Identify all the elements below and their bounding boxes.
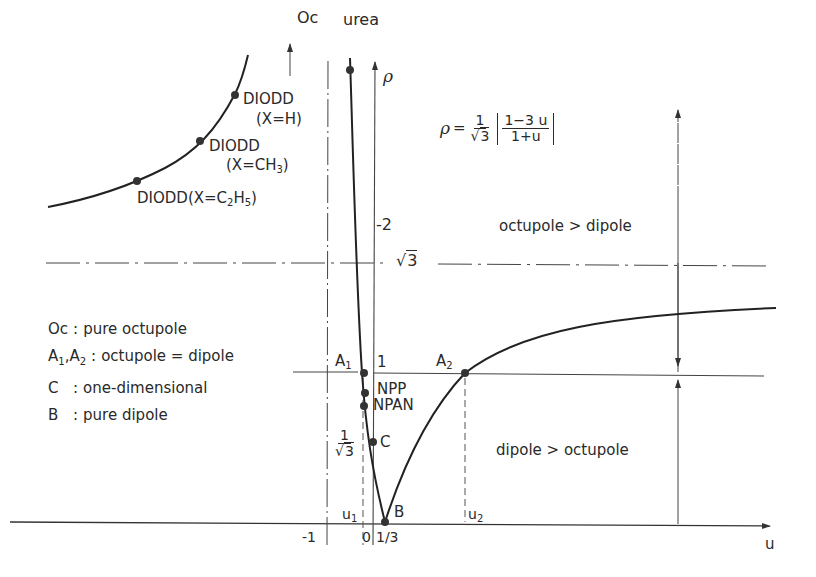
chart-canvas [0, 0, 816, 577]
diodd-h-label-2: (X=H) [256, 112, 302, 127]
formula-abs: 1−3 u 1+u [497, 113, 554, 145]
legend-row-oc: Oc:pure octupole [48, 316, 234, 343]
point-diodd-h [231, 91, 239, 99]
diodd-h-label-1: DIODD [243, 92, 294, 107]
diodd-ch3-label-1: DIODD [209, 139, 260, 154]
region-label-lower: dipole > octupole [496, 443, 629, 458]
urea-label: urea [343, 12, 379, 28]
point-urea [346, 66, 354, 74]
u-axis-label: u [765, 537, 775, 552]
tick-2: -2 [376, 217, 392, 233]
label-a1: A1 [335, 354, 352, 371]
tick-minus1: -1 [302, 530, 316, 544]
tick-sqrt3: √3 [396, 253, 417, 269]
point-b [381, 518, 389, 526]
label-b: B [394, 505, 404, 520]
label-npan: NPAN [373, 398, 414, 413]
u-axis [10, 522, 770, 526]
label-c: C [380, 435, 390, 450]
tick-one-third: 1/3 [376, 530, 399, 544]
curve-branch-left [48, 55, 248, 207]
oc-label: Oc [297, 10, 318, 26]
rho-axis-label: ρ [383, 68, 393, 85]
label-a2: A2 [436, 354, 453, 371]
label-u2: u2 [468, 507, 483, 524]
diodd-ch3-label-2: (X=CH3) [226, 158, 289, 175]
label-npp: NPP [377, 382, 406, 397]
curve-branch-right [385, 308, 776, 522]
point-diodd-ch3 [196, 137, 204, 145]
point-diodd-c2h5 [133, 177, 141, 185]
point-c [369, 438, 377, 446]
phase-diagram: Oc urea ρ DIODD (X=H) DIODD (X=CH3) DIOD… [0, 0, 816, 577]
tick-1: 1 [377, 355, 387, 370]
legend: Oc:pure octupole A1, A2:octupole = dipol… [48, 316, 234, 429]
formula-coefficient: 1 √3 [469, 113, 492, 145]
tick-0: 0 [362, 530, 371, 544]
u-minus1-line [327, 60, 328, 545]
point-a2 [461, 369, 469, 377]
diodd-c2h5-label: DIODD(X=C2H5) [137, 191, 257, 208]
sqrt3-asymptote-right [438, 264, 770, 266]
point-npp [361, 389, 369, 397]
legend-row-c: C:one-dimensional [48, 375, 234, 402]
region-label-upper: octupole > dipole [499, 219, 632, 234]
tick-inv-sqrt3: 1 √3 [333, 428, 356, 460]
label-u1: u1 [342, 507, 357, 524]
legend-row-a1-a2: A1, A2:octupole = dipole [48, 343, 234, 375]
rho-one-line-right [373, 373, 764, 376]
rho-formula: ρ= 1 √3 1−3 u 1+u [440, 113, 554, 145]
point-npan [360, 402, 368, 410]
legend-row-b: B:pure dipole [48, 402, 234, 429]
point-a1 [360, 369, 368, 377]
